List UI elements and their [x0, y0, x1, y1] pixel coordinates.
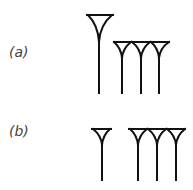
single-wedge-icon: [92, 129, 111, 180]
triple-wedge-icon: [129, 129, 185, 180]
triple-wedge-icon: [114, 42, 169, 93]
large-wedge-icon: [87, 15, 113, 93]
cuneiform-diagram: [0, 0, 193, 190]
